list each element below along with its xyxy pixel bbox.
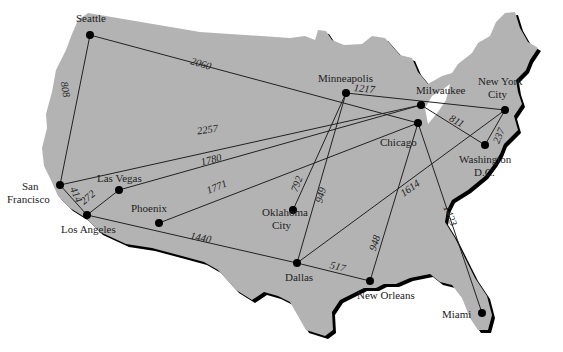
city-marker-dallas bbox=[293, 259, 301, 267]
city-marker-miami bbox=[478, 309, 486, 317]
city-marker-newyork bbox=[501, 106, 509, 114]
city-label-seattle: Seattle bbox=[76, 12, 106, 24]
city-marker-lasvegas bbox=[115, 186, 123, 194]
city-label-sanfrancisco: SanFrancisco bbox=[7, 180, 50, 205]
city-marker-milwaukee bbox=[417, 101, 425, 109]
city-label-miami: Miami bbox=[442, 308, 471, 320]
us-route-map: 8082060225741427217801771792949121781123… bbox=[0, 0, 563, 352]
city-label-milwaukee: Milwaukee bbox=[416, 84, 466, 96]
city-marker-chicago bbox=[414, 119, 422, 127]
city-marker-washington bbox=[481, 141, 489, 149]
city-label-neworleans: New Orleans bbox=[357, 289, 415, 301]
city-marker-phoenix bbox=[155, 219, 163, 227]
city-label-losangeles: Los Angeles bbox=[61, 223, 116, 235]
city-label-lasvegas: Las Vegas bbox=[97, 172, 142, 184]
city-label-dallas: Dallas bbox=[285, 271, 313, 283]
city-marker-losangeles bbox=[83, 211, 91, 219]
city-marker-minneapolis bbox=[342, 89, 350, 97]
city-label-minneapolis: Minneapolis bbox=[318, 72, 373, 84]
city-marker-neworleans bbox=[366, 277, 374, 285]
city-marker-seattle bbox=[86, 31, 94, 39]
city-label-chicago: Chicago bbox=[380, 136, 417, 148]
city-marker-sanfrancisco bbox=[56, 181, 64, 189]
city-label-phoenix: Phoenix bbox=[131, 202, 168, 214]
